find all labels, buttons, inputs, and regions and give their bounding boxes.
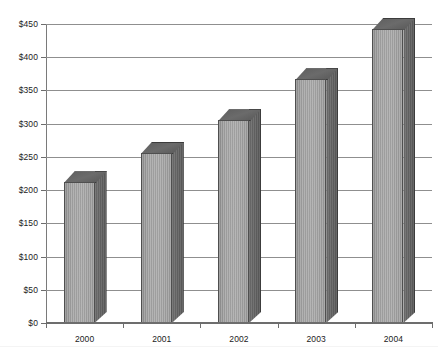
bar <box>141 142 183 323</box>
bar-side-face <box>172 142 184 323</box>
bar <box>295 68 337 323</box>
bar-front-face <box>295 79 326 323</box>
bar-side-face <box>95 171 107 323</box>
bar-side-face <box>249 109 261 323</box>
y-tick-label: $100 <box>19 252 38 262</box>
x-axis-line <box>46 322 432 323</box>
y-tick-label: $250 <box>19 152 38 162</box>
x-tick-mark <box>123 322 124 328</box>
x-tick-label: 2002 <box>229 334 248 344</box>
y-tick-label: $200 <box>19 185 38 195</box>
bar-front-face <box>372 29 403 323</box>
bar-side-face <box>326 68 338 323</box>
y-tick-label: $300 <box>19 119 38 129</box>
bar-front-face <box>141 153 172 323</box>
x-tick-label: 2003 <box>307 334 326 344</box>
x-tick-label: 2001 <box>152 334 171 344</box>
scan-artifact <box>0 346 438 347</box>
bar <box>372 18 414 323</box>
x-tick-label: 2004 <box>384 334 403 344</box>
bar <box>218 109 260 323</box>
y-axis-labels: $0$50$100$150$200$250$300$350$400$450 <box>0 0 38 349</box>
y-tick-label: $450 <box>19 19 38 29</box>
bar-chart: $0$50$100$150$200$250$300$350$400$450 20… <box>0 0 438 349</box>
y-tick-label: $150 <box>19 218 38 228</box>
y-tick-label: $50 <box>24 285 38 295</box>
bar <box>64 171 106 323</box>
x-tick-mark <box>46 322 47 328</box>
plot-area <box>46 24 432 323</box>
bar-side-face <box>403 18 415 323</box>
x-tick-mark <box>432 322 433 328</box>
gridline <box>46 323 432 324</box>
bar-front-face <box>64 182 95 323</box>
y-tick-label: $400 <box>19 52 38 62</box>
x-tick-mark <box>278 322 279 328</box>
y-tick-label: $350 <box>19 85 38 95</box>
x-tick-mark <box>355 322 356 328</box>
x-tick-label: 2000 <box>75 334 94 344</box>
y-tick-label: $0 <box>28 318 38 328</box>
bar-front-face <box>218 120 249 323</box>
x-tick-mark <box>200 322 201 328</box>
